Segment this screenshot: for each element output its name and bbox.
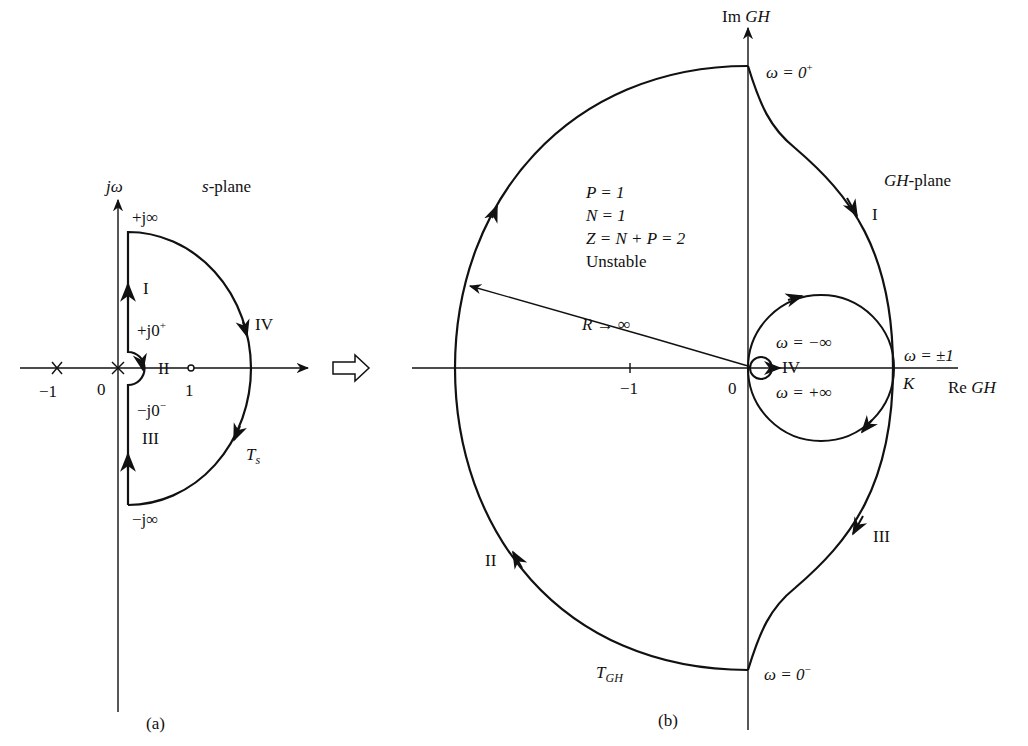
radius-line-lower [649, 337, 748, 366]
gh-segment-ii-label: II [485, 552, 496, 569]
caption-b: (b) [658, 712, 678, 729]
tgh-sub: GH [605, 671, 622, 685]
analysis-n: N = 1 [586, 207, 626, 224]
gh-title-var: GH [884, 171, 909, 190]
analysis-z: Z = N + P = 2 [586, 230, 685, 247]
omega-top-text: ω = 0 [766, 63, 806, 82]
im-prefix: Im [722, 7, 741, 26]
gh-imag-axis-label: Im GH [722, 8, 770, 25]
gh-segment-iv-label: IV [782, 359, 800, 376]
j0-plus-text: +j0 [137, 321, 160, 340]
analysis-verdict: Unstable [586, 253, 646, 270]
gh-tick-zero-label: 0 [728, 380, 737, 397]
segment-ts-arrow-icon [234, 426, 240, 440]
s-plane-tick-zero: 0 [97, 381, 106, 398]
omega-bottom-sup: − [804, 663, 810, 675]
s-plane-j0-plus-label: +j0+ [137, 320, 166, 339]
j0-minus-sup: − [160, 399, 166, 411]
s-plane-bottom-point-label: −j∞ [132, 511, 158, 528]
gh-tick-minus-one-label: −1 [620, 380, 638, 397]
omega-plus-inf-label: ω = +∞ [776, 384, 832, 401]
s-plane-top-point-label: +j∞ [132, 209, 158, 226]
gh-segment-iii-label: III [873, 528, 890, 545]
omega-pm-one-label: ω = ±1 [904, 347, 954, 364]
gh-real-axis-label: Re GH [948, 379, 996, 396]
s-plane-tick-minus-one: −1 [39, 383, 57, 400]
transform-arrow-icon [333, 355, 369, 381]
omega-zero-plus-label: ω = 0+ [766, 62, 813, 81]
ts-sub: s [255, 453, 260, 467]
gh-plane-title: GH-plane [884, 172, 951, 189]
omega-bottom-text: ω = 0 [764, 665, 804, 684]
omega-top-sup: + [806, 61, 812, 73]
nyquist-diagram [0, 0, 1028, 746]
j0-plus-sup: + [160, 319, 166, 331]
s-plane-title-var: s [202, 177, 209, 196]
gh-arrow-circle-bottom-icon [862, 420, 872, 432]
k-label: K [903, 375, 914, 392]
s-plane-contour-label: Ts [246, 446, 260, 466]
j0-minus-text: −j0 [137, 401, 160, 420]
s-plane-imag-axis-label: jω [106, 178, 123, 195]
re-prefix: Re [948, 378, 967, 397]
im-var: GH [745, 7, 770, 26]
s-plane-title: s-plane [202, 178, 251, 195]
omega-minus-inf-label: ω = −∞ [776, 334, 832, 351]
radius-label: R → ∞ [582, 316, 630, 333]
gh-title-rest: -plane [909, 171, 951, 190]
gh-segment-iii-curve [748, 368, 893, 670]
s-plane-segment-i-label: I [143, 280, 149, 297]
s-plane-tick-one: 1 [185, 382, 194, 399]
omega-zero-minus-label: ω = 0− [764, 664, 811, 683]
analysis-p: P = 1 [586, 184, 625, 201]
s-plane-title-rest: -plane [209, 177, 251, 196]
s-plane-j0-minus-label: −j0− [137, 400, 166, 419]
gh-contour-label: TGH [596, 664, 623, 684]
re-var: GH [971, 378, 996, 397]
s-plane-segment-ii-label: II [158, 360, 169, 377]
gh-arrow-i-icon [847, 198, 857, 216]
caption-a: (a) [146, 715, 165, 732]
zero-one-icon [188, 365, 194, 371]
gh-segment-i-label: I [872, 206, 878, 223]
s-plane-segment-iii-label: III [142, 430, 159, 447]
s-plane-segment-iv-label: IV [255, 316, 273, 333]
